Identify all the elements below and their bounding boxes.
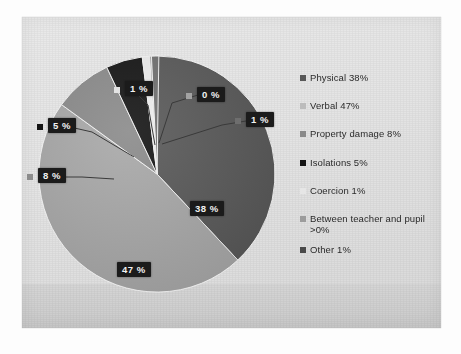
legend-swatch-coercion	[300, 188, 306, 194]
callout-coercion: 1 %	[125, 81, 153, 96]
legend-swatch-property-damage	[300, 131, 306, 137]
callout-isolations: 5 %	[48, 118, 76, 133]
callout-swatch-property-damage	[27, 174, 33, 180]
legend-label-between-teacher-and-pupil: Between teacher and pupil >0%	[310, 213, 425, 235]
plot-area: 1 % 0 % 1 % 5 % 8 % 38 % 47 %	[22, 17, 312, 328]
callout-swatch-between	[186, 93, 192, 99]
legend-label-between-line2: >0%	[310, 224, 330, 235]
legend-label-property-damage: Property damage 8%	[310, 128, 401, 139]
callout-swatch-other	[235, 118, 241, 124]
chart-legend: Physical 38% Verbal 47% Property damage …	[300, 72, 435, 273]
legend-label-between-line1: Between teacher and pupil	[310, 213, 425, 224]
legend-label-verbal: Verbal 47%	[310, 100, 360, 111]
legend-label-isolations: Isolations 5%	[310, 157, 368, 168]
legend-item-other: Other 1%	[300, 244, 435, 255]
pie-chart	[32, 52, 282, 297]
callout-verbal: 47 %	[117, 262, 151, 277]
callout-physical: 38 %	[190, 201, 224, 216]
legend-swatch-verbal	[300, 103, 306, 109]
legend-swatch-physical	[300, 75, 306, 81]
legend-label-coercion: Coercion 1%	[310, 185, 366, 196]
legend-item-verbal: Verbal 47%	[300, 100, 435, 111]
pie-svg	[32, 52, 282, 297]
callout-between-teacher-and-pupil: 0 %	[197, 87, 225, 102]
legend-swatch-isolations	[300, 160, 306, 166]
legend-label-physical: Physical 38%	[310, 72, 368, 83]
callout-property-damage: 8 %	[38, 168, 66, 183]
screenshot-root: 1 % 0 % 1 % 5 % 8 % 38 % 47 % Physical 3…	[0, 0, 461, 354]
legend-item-property-damage: Property damage 8%	[300, 128, 435, 139]
legend-swatch-other	[300, 247, 306, 253]
legend-label-other: Other 1%	[310, 244, 351, 255]
legend-item-between-teacher-and-pupil: Between teacher and pupil >0%	[300, 213, 435, 235]
legend-item-physical: Physical 38%	[300, 72, 435, 83]
callout-swatch-coercion	[114, 87, 120, 93]
legend-item-coercion: Coercion 1%	[300, 185, 435, 196]
legend-swatch-between-teacher-and-pupil	[300, 216, 306, 222]
legend-item-isolations: Isolations 5%	[300, 157, 435, 168]
callout-other: 1 %	[246, 112, 274, 127]
callout-swatch-isolations	[37, 124, 43, 130]
